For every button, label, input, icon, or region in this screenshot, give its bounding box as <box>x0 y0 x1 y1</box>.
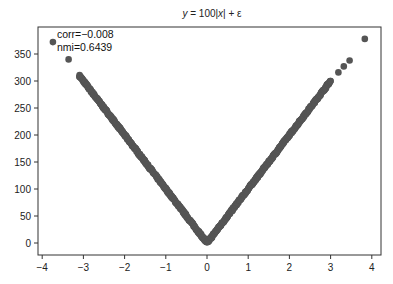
x-tick-label: −1 <box>160 262 172 273</box>
x-tick-label: 2 <box>287 262 293 273</box>
corr-annotation: corr=−0.008 <box>57 28 114 40</box>
y-tick-label: 200 <box>14 130 31 141</box>
data-points <box>50 36 369 246</box>
scatter-chart: y = 100|x| + ε −4−3−2−101234 05010015020… <box>0 0 393 284</box>
plot-frame <box>38 27 381 255</box>
y-tick-label: 50 <box>20 211 32 222</box>
x-tick-label: −4 <box>36 262 48 273</box>
y-axis: 050100150200250300350 <box>14 49 38 249</box>
nmi-annotation: nmi=0.6439 <box>57 41 112 53</box>
x-tick-label: 1 <box>245 262 251 273</box>
x-tick-label: −3 <box>78 262 90 273</box>
x-tick-label: 3 <box>328 262 334 273</box>
y-tick-label: 350 <box>14 49 31 60</box>
x-axis: −4−3−2−101234 <box>36 255 375 273</box>
x-tick-label: 0 <box>204 262 210 273</box>
y-tick-label: 300 <box>14 76 31 87</box>
y-tick-label: 150 <box>14 157 31 168</box>
y-tick-label: 100 <box>14 184 31 195</box>
chart-title: y = 100|x| + ε <box>181 8 242 19</box>
x-tick-label: 4 <box>369 262 375 273</box>
y-tick-label: 0 <box>25 238 31 249</box>
x-tick-label: −2 <box>119 262 131 273</box>
y-tick-label: 250 <box>14 103 31 114</box>
